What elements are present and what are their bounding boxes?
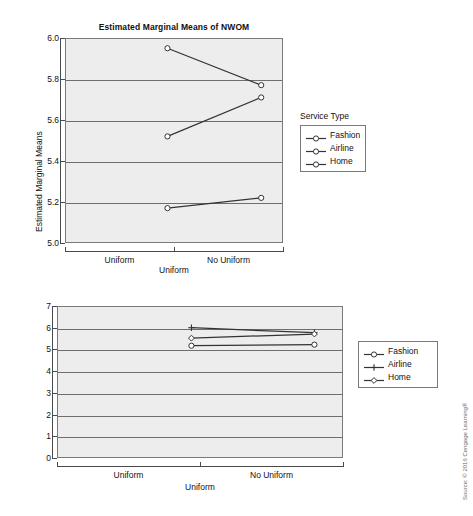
legend-item-home[interactable]: Home [363, 371, 433, 384]
legend-item-fashion[interactable]: Fashion [363, 345, 433, 358]
legend-bottom[interactable]: FashionAirlineHome [358, 341, 438, 388]
legend-item-label: Airline [388, 360, 412, 369]
legend-item-label: Fashion [330, 131, 360, 140]
legend-item-home[interactable]: Home [305, 155, 361, 168]
chart-bottom: NWOM LS Means 76543210 UniformNo Uniform… [0, 282, 473, 516]
series-lines-bottom [0, 282, 473, 516]
diamond-marker-icon [363, 372, 385, 383]
circle-marker-icon [305, 130, 327, 141]
source-note: Source: © 2016 Cengage Learning® [462, 403, 468, 500]
figure-root: Estimated Marginal Means of NWOM Estimat… [0, 0, 473, 516]
series-fashion [165, 46, 264, 88]
series-fashion [189, 342, 317, 348]
legend-title-top: Service Type [300, 111, 349, 121]
legend-item-airline[interactable]: Airline [305, 142, 361, 155]
legend-top[interactable]: FashionAirlineHome [300, 125, 366, 172]
circle-marker-icon [363, 346, 385, 357]
series-lines-top [0, 0, 473, 282]
circle-marker-icon [305, 156, 327, 167]
legend-item-fashion[interactable]: Fashion [305, 129, 361, 142]
series-airline [165, 95, 264, 139]
plus-marker-icon [363, 359, 385, 370]
legend-item-airline[interactable]: Airline [363, 358, 433, 371]
legend-item-label: Home [330, 157, 353, 166]
series-home [165, 195, 264, 210]
legend-item-label: Home [388, 373, 411, 382]
chart-top: Estimated Marginal Means of NWOM Estimat… [0, 0, 473, 282]
legend-item-label: Airline [330, 144, 354, 153]
legend-item-label: Fashion [388, 347, 418, 356]
circle-marker-icon [305, 143, 327, 154]
